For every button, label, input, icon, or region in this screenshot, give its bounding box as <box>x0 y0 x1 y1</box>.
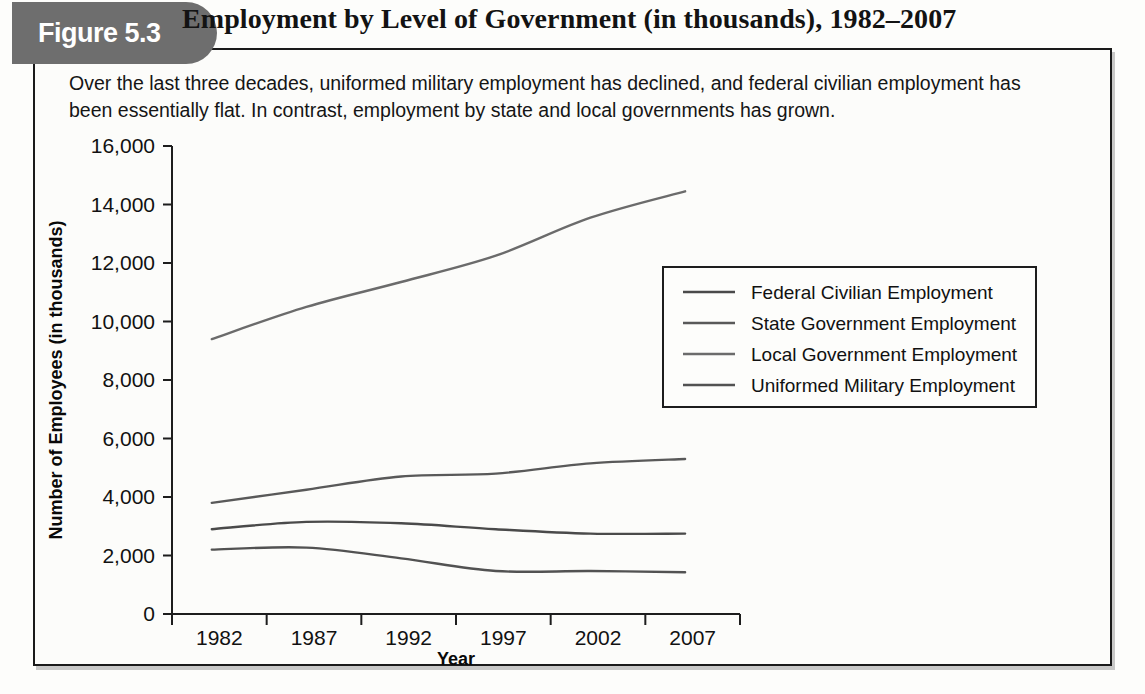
figure-title: Employment by Level of Government (in th… <box>182 3 956 35</box>
figure-number-label: Figure 5.3 <box>38 18 161 49</box>
figure-body-box: Over the last three decades, uniformed m… <box>33 48 1112 666</box>
figure-root: Figure 5.3 Employment by Level of Govern… <box>0 0 1145 694</box>
figure-caption: Over the last three decades, uniformed m… <box>69 70 1069 124</box>
